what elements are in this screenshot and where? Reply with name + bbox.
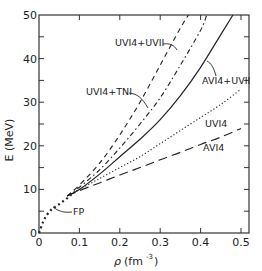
label-fp: FP — [73, 206, 84, 217]
x-tick-label: 0.5 — [232, 236, 250, 249]
x-axis-title-rho: ρ — [114, 255, 121, 268]
x-tick-label: 0.3 — [151, 236, 169, 249]
curve-fp — [39, 195, 71, 233]
y-tick-label: 0 — [30, 227, 37, 240]
leader-fp — [53, 207, 72, 212]
label-uvi4: UVI4 — [205, 118, 227, 129]
x-tick-label: 0.2 — [111, 236, 129, 249]
y-axis-title: E (MeV) — [3, 119, 16, 162]
y-tick-label: 30 — [23, 96, 37, 109]
leader-avi4-uvii — [207, 61, 216, 76]
y-tick-label: 40 — [23, 53, 37, 66]
x-axis-ticks: 00.10.20.30.40.5 — [36, 15, 250, 249]
x-axis-title-unit: (fm — [124, 255, 143, 268]
x-tick-label: 0.1 — [71, 236, 89, 249]
label-avi4: AVI4 — [203, 142, 224, 153]
y-tick-label: 10 — [23, 183, 37, 196]
y-tick-label: 20 — [23, 140, 37, 153]
x-axis-title-exp: -3 — [146, 253, 153, 261]
curve-avi4 — [67, 128, 241, 196]
x-tick-label: 0.4 — [192, 236, 210, 249]
x-axis-title: ρ (fm -3 ) — [114, 253, 158, 268]
label-uvi4-tni: UVI4+TNI — [86, 86, 132, 97]
label-uvi4-uvii: UVI4+UVII — [115, 37, 164, 48]
x-axis-title-close: ) — [154, 255, 158, 268]
chart: 00.10.20.30.40.5 01020304050 E (MeV) ρ (… — [0, 0, 262, 271]
label-avi4-uvii: AVI4+UVII — [202, 75, 250, 86]
y-tick-label: 50 — [23, 9, 37, 22]
